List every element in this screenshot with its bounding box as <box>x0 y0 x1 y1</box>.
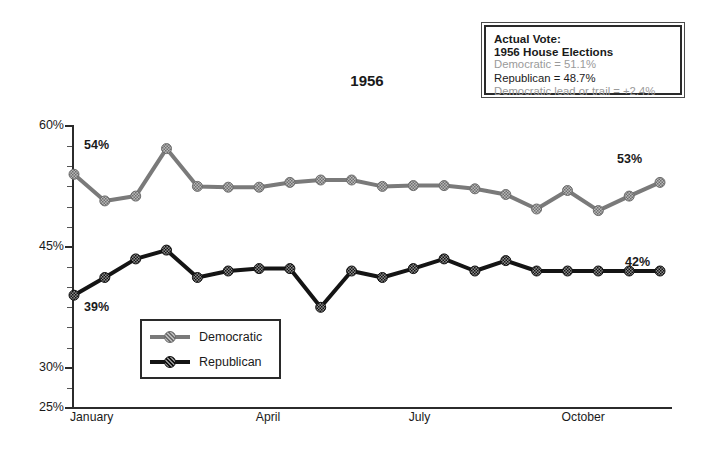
data-point <box>192 273 202 283</box>
series-line <box>74 149 660 211</box>
data-point <box>501 256 511 266</box>
x-axis-label: October <box>562 410 605 424</box>
data-point <box>69 169 79 179</box>
y-axis-label: 30% <box>18 360 64 374</box>
data-point <box>192 181 202 191</box>
y-tick-minor <box>67 287 72 288</box>
data-point <box>131 254 141 264</box>
y-tick-minor <box>67 348 72 349</box>
label-republican-end: 42% <box>625 255 650 269</box>
data-point <box>285 264 295 274</box>
chart-title: 1956 <box>322 72 412 89</box>
y-tick-minor <box>67 146 72 147</box>
y-axis-line <box>72 125 74 409</box>
y-tick-major <box>65 367 72 369</box>
label-democratic-start: 54% <box>84 138 109 152</box>
legend-item-republican[interactable]: Republican <box>150 352 262 372</box>
annotation-line-actual-vote: Actual Vote: <box>494 32 673 45</box>
y-tick-minor <box>67 186 72 187</box>
y-axis-label: 45% <box>18 239 64 253</box>
y-axis-label: 60% <box>18 118 64 132</box>
data-point <box>563 186 573 196</box>
annotation-line-republican: Republican = 48.7% <box>494 72 673 85</box>
data-point <box>439 254 449 264</box>
y-tick-major <box>65 246 72 248</box>
annotation-line-election: 1956 House Elections <box>494 45 673 58</box>
data-point <box>470 184 480 194</box>
data-point <box>439 181 449 191</box>
legend-item-democratic[interactable]: Democratic <box>150 327 262 347</box>
series-democratic <box>69 144 665 216</box>
x-axis-label: April <box>256 410 280 424</box>
legend-swatch-republican-icon <box>150 355 190 369</box>
data-point <box>624 191 634 201</box>
data-point <box>162 245 172 255</box>
y-tick-minor <box>67 267 72 268</box>
label-republican-start: 39% <box>84 300 109 314</box>
legend-label-democratic: Democratic <box>199 330 262 344</box>
data-point <box>316 302 326 312</box>
data-point <box>470 266 480 276</box>
data-point <box>532 204 542 214</box>
data-point <box>316 175 326 185</box>
data-point <box>593 266 603 276</box>
data-point <box>254 264 264 274</box>
y-tick-major <box>65 407 72 409</box>
data-point <box>563 266 573 276</box>
y-tick-major <box>65 125 72 127</box>
annotation-line-lead: Democratic lead or trail = +2.4% <box>494 85 673 98</box>
series-republican <box>69 245 665 312</box>
data-point <box>131 191 141 201</box>
y-axis-label: 25% <box>18 400 64 414</box>
data-point <box>655 177 665 187</box>
data-point <box>377 181 387 191</box>
y-tick-minor <box>67 327 72 328</box>
y-tick-minor <box>67 307 72 308</box>
data-point <box>347 266 357 276</box>
data-point <box>655 266 665 276</box>
legend-label-republican: Republican <box>199 355 262 369</box>
annotation-line-democratic: Democratic = 51.1% <box>494 58 673 71</box>
data-point <box>69 290 79 300</box>
x-axis-label: January <box>70 410 113 424</box>
legend-swatch-democratic-icon <box>150 330 190 344</box>
chart-page: 1956 Actual Vote: 1956 House Elections D… <box>0 0 717 450</box>
y-tick-minor <box>67 207 72 208</box>
data-point <box>285 177 295 187</box>
label-democratic-end: 53% <box>617 152 642 166</box>
x-axis-line <box>72 407 672 409</box>
data-point <box>593 206 603 216</box>
actual-vote-annotation-box: Actual Vote: 1956 House Elections Democr… <box>481 22 685 98</box>
data-point <box>501 190 511 200</box>
data-point <box>223 182 233 192</box>
x-axis-label: July <box>409 410 431 424</box>
data-point <box>223 266 233 276</box>
data-point <box>377 273 387 283</box>
data-point <box>532 266 542 276</box>
data-point <box>254 182 264 192</box>
data-point <box>408 181 418 191</box>
data-point <box>100 273 110 283</box>
y-tick-minor <box>67 166 72 167</box>
series-line <box>74 250 660 307</box>
legend: Democratic Republican <box>140 319 281 379</box>
data-point <box>100 196 110 206</box>
data-point <box>162 144 172 154</box>
annotation-inner: Actual Vote: 1956 House Elections Democr… <box>484 25 682 95</box>
y-tick-minor <box>67 388 72 389</box>
y-tick-minor <box>67 227 72 228</box>
data-point <box>408 264 418 274</box>
data-point <box>347 175 357 185</box>
